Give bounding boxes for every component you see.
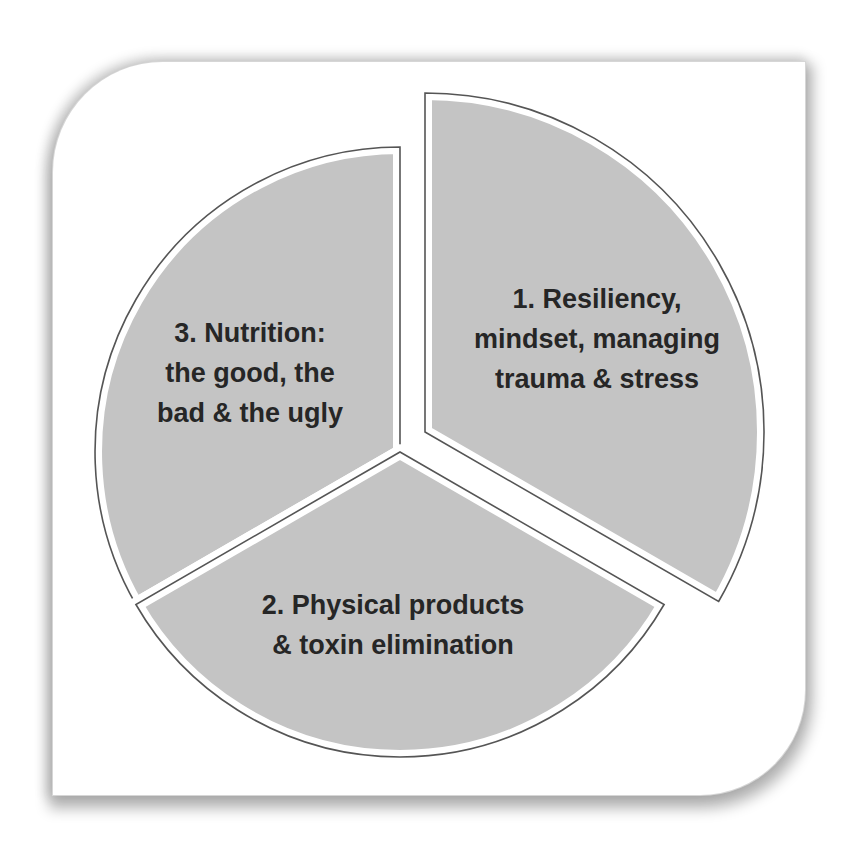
slice-3-label: 3. Nutrition: the good, the bad & the ug… — [157, 313, 343, 433]
slice-1-label-line-3: trauma & stress — [474, 359, 720, 399]
slice-1-label: 1. Resiliency, mindset, managing trauma … — [474, 279, 720, 399]
slice-3-label-line-2: the good, the — [157, 353, 343, 393]
slice-3-label-line-1: 3. Nutrition: — [157, 313, 343, 353]
slice-2-label-line-1: 2. Physical products — [262, 585, 525, 625]
pie-diagram — [0, 0, 860, 863]
slice-2-label: 2. Physical products & toxin elimination — [262, 585, 525, 665]
slice-1-label-line-2: mindset, managing — [474, 319, 720, 359]
slice-1-label-line-1: 1. Resiliency, — [474, 279, 720, 319]
slice-3-label-line-3: bad & the ugly — [157, 393, 343, 433]
slice-2-label-line-2: & toxin elimination — [262, 625, 525, 665]
